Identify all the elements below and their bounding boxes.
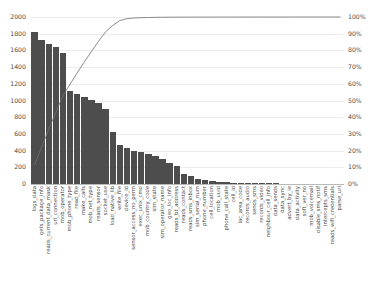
bar-series	[31, 17, 344, 184]
bar	[67, 91, 73, 184]
pareto-chart: 0200400600800100012001400160018002000 0%…	[0, 0, 391, 285]
x-axis-tick-label: sensor_access_no_perm	[131, 186, 136, 250]
bar	[46, 44, 52, 184]
bar	[188, 176, 194, 184]
bar	[166, 163, 172, 184]
y2-axis-tick-label: 40%	[348, 114, 376, 120]
y-axis-tick-label: 800	[0, 114, 26, 120]
bar	[131, 151, 137, 184]
x-axis-tick-slot: parse_uri	[337, 186, 344, 285]
x-axis-tick-label: make_calls	[82, 186, 87, 215]
bar	[74, 94, 80, 184]
x-axis-tick-label: sends_sms	[252, 186, 257, 215]
y-axis-tick-label: 1400	[0, 64, 26, 70]
bar	[60, 53, 66, 184]
bar	[159, 159, 165, 184]
x-axis-tick-slot: mob_uuid	[216, 186, 223, 285]
x-axis-tick-label: advert_by_ie	[288, 186, 293, 220]
bar	[174, 166, 180, 184]
bar	[95, 103, 101, 184]
y-axis-tick-label: 200	[0, 164, 26, 170]
y2-axis-tick-label: 80%	[348, 47, 376, 53]
x-axis-tick-label: intercepts_sms	[323, 186, 328, 226]
x-axis-tick-label: lac_area_code	[238, 186, 243, 224]
x-axis-tick-labels: logs_datagets_package_inforeads_current_…	[31, 186, 344, 285]
x-axis-tick-slot: sim_state	[152, 186, 159, 285]
x-axis-tick-slot: soft_ver_no	[301, 186, 308, 285]
x-axis-tick-label: logs_data	[32, 186, 37, 211]
x-axis-tick-label: device_id	[124, 186, 129, 211]
y-axis-tick-label: 1600	[0, 47, 26, 53]
x-axis-tick-slot: reads_current_data_mask	[45, 186, 52, 285]
x-axis-tick-slot: advert_by_ie	[287, 186, 294, 285]
x-axis-tick-slot: gets_package_info	[38, 186, 45, 285]
bar	[110, 132, 116, 184]
x-axis-tick-label: phone_call_state	[224, 186, 229, 230]
plot-area	[31, 17, 344, 184]
x-axis-tick-label: mob_voicemail	[309, 186, 314, 226]
x-axis-tick-label: reads_sensor	[96, 186, 101, 221]
y2-axis-tick-label: 60%	[348, 81, 376, 87]
x-axis-tick-label: reads_sms_inbox	[188, 186, 193, 231]
bar	[38, 40, 44, 184]
y-axis-tick-label: 2000	[0, 14, 26, 20]
x-axis-tick-label: gets_package_info	[39, 186, 44, 235]
x-axis-tick-slot: write_file	[116, 186, 123, 285]
x-axis-tick-label: sim_state	[153, 186, 158, 211]
bar	[181, 174, 187, 184]
x-axis-tick-label: cell_id	[231, 186, 236, 203]
y2-axis-tick-label: 30%	[348, 131, 376, 137]
y2-axis-tick-label: 100%	[348, 14, 376, 20]
x-axis-tick-label: data_sends	[274, 186, 279, 216]
x-axis-tick-label: mob_phone_type	[67, 186, 72, 231]
y2-axis-tick-label: 90%	[348, 31, 376, 37]
x-axis-tick-slot: sim_operator_name	[159, 186, 166, 285]
x-axis-tick-label: load_native_lib	[110, 186, 115, 225]
x-axis-tick-label: records_video	[259, 186, 264, 223]
x-axis-tick-label: socket_use	[103, 186, 108, 215]
y2-axis-tick-label: 70%	[348, 64, 376, 70]
x-axis-tick-label: data_sync	[281, 186, 286, 213]
bar	[31, 32, 37, 184]
x-axis-tick-label: url_connection	[53, 186, 58, 225]
x-axis-tick-label: mob_country_code	[146, 186, 151, 236]
x-axis-tick-label: neighbour_cell_info	[267, 186, 272, 237]
x-axis-tick-slot: data_activity	[294, 186, 301, 285]
x-axis-tick-label: exec_unix_cmd	[139, 186, 144, 226]
bar	[117, 145, 123, 184]
y-axis-tick-label: 1200	[0, 81, 26, 87]
bar	[53, 47, 59, 184]
y-axis-tick-label: 600	[0, 131, 26, 137]
x-axis-tick-label: read_file	[75, 186, 80, 209]
x-axis-tick-label: cell_location	[210, 186, 215, 219]
x-axis-tick-label: data_activity	[295, 186, 300, 220]
x-axis-tick-slot: socket_use	[102, 186, 109, 285]
x-axis-tick-label: reads_contact	[181, 186, 186, 223]
x-axis-tick-label: disable_sms_notif	[316, 186, 321, 233]
bar	[88, 100, 94, 184]
x-axis-tick-slot: phone_call_state	[223, 186, 230, 285]
x-axis-tick-label: sim_operator_name	[160, 186, 165, 239]
x-axis-tick-slot: cell_id	[230, 186, 237, 285]
x-axis-tick-label: mob_uuid	[217, 186, 222, 212]
y2-axis-tick-label: 20%	[348, 148, 376, 154]
x-axis-tick-slot: lac_area_code	[237, 186, 244, 285]
bar	[145, 154, 151, 184]
x-axis-tick-slot: reads_sensor	[95, 186, 102, 285]
x-axis-tick-slot: logs_data	[31, 186, 38, 285]
x-axis-tick-label: geo_loc_info	[167, 186, 172, 219]
x-axis-tick-slot: geo_loc_info	[166, 186, 173, 285]
x-axis-tick-label: reads_current_data_mask	[46, 186, 51, 254]
x-axis-tick-slot: mob_net_type	[88, 186, 95, 285]
x-axis-tick-label: sim_serial_num	[195, 186, 200, 227]
x-axis-tick-label: mob_net_type	[89, 186, 94, 224]
x-axis-tick-label: records_audio	[245, 186, 250, 223]
y-axis-tick-label: 1800	[0, 31, 26, 37]
x-axis-tick-slot: reads_bt_address	[173, 186, 180, 285]
x-axis-tick-slot: records_audio	[244, 186, 251, 285]
x-axis-tick-label: mob_operator	[60, 186, 65, 223]
bar	[152, 156, 158, 184]
y2-axis-tick-label: 50%	[348, 98, 376, 104]
x-axis-tick-label: write_file	[117, 186, 122, 210]
x-axis-tick-label: soft_ver_no	[302, 186, 307, 216]
